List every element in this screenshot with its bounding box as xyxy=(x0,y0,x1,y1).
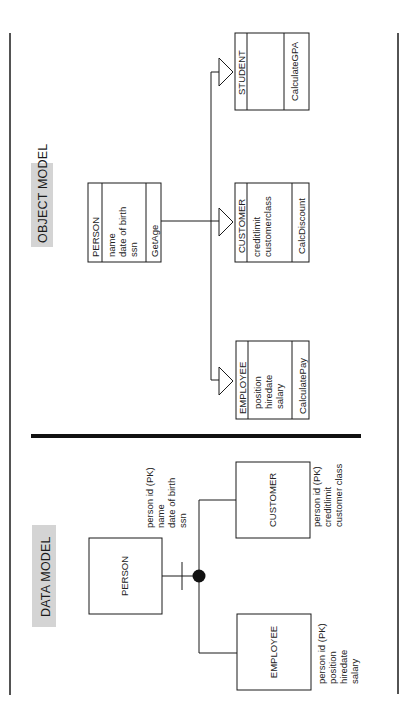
object-model-title: OBJECT MODEL xyxy=(36,144,50,243)
class-person: PERSON name date of birth ssn GetAge xyxy=(88,183,161,262)
class-attribute: hiredate xyxy=(263,375,274,409)
class-attribute: creditlimit xyxy=(251,217,262,257)
entity-attribute: person id (PK) xyxy=(144,467,155,528)
entity-attribute: name xyxy=(155,504,166,528)
entity-attribute: position xyxy=(327,651,338,684)
inheritance-arrow-employee-icon xyxy=(219,367,233,395)
entity-attribute: customer class xyxy=(333,463,344,527)
class-student: STUDENT CalculateGPA xyxy=(235,33,309,110)
entity-employee: EMPLOYEE person id (PK) position hiredat… xyxy=(237,614,360,690)
class-method: CalcDiscount xyxy=(296,198,307,254)
entity-name: EMPLOYEE xyxy=(268,626,279,678)
entity-attribute: hiredate xyxy=(338,650,349,684)
entity-attribute: salary xyxy=(349,658,360,684)
subtype-junction-icon xyxy=(193,570,206,583)
entity-name: PERSON xyxy=(119,556,130,596)
entity-attribute: creditlimit xyxy=(322,487,333,527)
class-attribute: position xyxy=(252,376,263,409)
diagram-canvas: OBJECT MODEL PERSON name date of birth s… xyxy=(0,0,406,722)
class-attribute: ssn xyxy=(128,242,139,257)
entity-name: CUSTOMER xyxy=(267,473,278,527)
class-name: STUDENT xyxy=(236,50,247,95)
entity-person: PERSON person id (PK) name date of birth… xyxy=(89,467,188,614)
class-name: CUSTOMER xyxy=(236,199,247,253)
class-attribute: salary xyxy=(274,383,285,409)
class-method: CalculatePay xyxy=(297,358,308,414)
entity-attribute: date of birth xyxy=(166,478,177,528)
inheritance-arrow-student-icon xyxy=(219,58,233,86)
data-model-section: DATA MODEL PERSON person id (PK) name da… xyxy=(32,462,360,690)
entity-attribute: ssn xyxy=(177,513,188,528)
entity-attribute: person id (PK) xyxy=(316,623,327,684)
inheritance-arrow-customer-icon xyxy=(219,208,233,236)
class-name: EMPLOYEE xyxy=(237,362,248,414)
entity-customer: CUSTOMER person id (PK) creditlimit cust… xyxy=(236,462,344,538)
class-method: CalculateGPA xyxy=(289,41,300,101)
class-method: GetAge xyxy=(149,225,160,257)
class-attribute: date of birth xyxy=(117,207,128,257)
class-attribute: customerclass xyxy=(262,196,273,257)
class-attribute: name xyxy=(106,233,117,257)
class-employee: EMPLOYEE position hiredate salary Calcul… xyxy=(236,341,309,419)
entity-attribute: person id (PK) xyxy=(311,466,322,527)
object-model-section: OBJECT MODEL PERSON name date of birth s… xyxy=(31,33,309,419)
class-name: PERSON xyxy=(90,217,101,257)
class-customer: CUSTOMER creditlimit customerclass CalcD… xyxy=(235,183,309,262)
data-model-title: DATA MODEL xyxy=(39,536,53,617)
